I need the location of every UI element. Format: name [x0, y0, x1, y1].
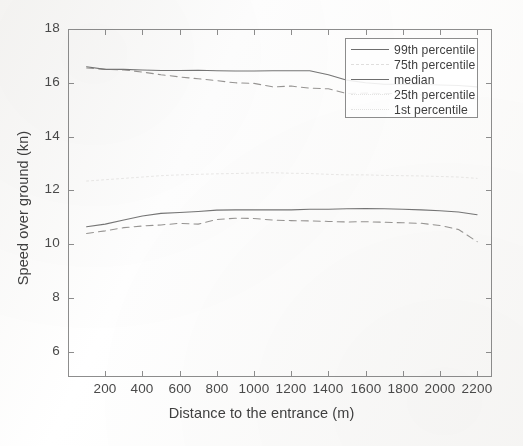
y-tick-mark	[68, 137, 74, 138]
x-tick-mark	[366, 371, 367, 377]
legend-label-99th: 99th percentile	[394, 43, 475, 57]
x-tick-mark-top	[477, 29, 478, 35]
y-tick-mark-right	[486, 83, 492, 84]
y-tick-mark-right	[486, 137, 492, 138]
y-tick-mark	[68, 83, 74, 84]
x-tick-mark-top	[366, 29, 367, 35]
x-tick-mark-top	[254, 29, 255, 35]
y-tick-mark	[68, 352, 74, 353]
y-tick-label: 18	[20, 20, 60, 35]
y-tick-mark-right	[486, 352, 492, 353]
x-tick-mark-top	[291, 29, 292, 35]
legend-line-sample-median	[350, 75, 390, 85]
x-tick-mark	[403, 371, 404, 377]
x-axis-title: Distance to the entrance (m)	[0, 405, 523, 421]
x-tick-mark	[291, 371, 292, 377]
x-tick-mark	[180, 371, 181, 377]
legend-item-75th: 75th percentile	[346, 57, 477, 72]
legend-label-median: median	[394, 73, 435, 87]
x-tick-mark	[328, 371, 329, 377]
x-tick-mark	[217, 371, 218, 377]
chart-legend: 99th percentile 75th percentile median 2…	[345, 38, 478, 118]
y-axis-title: Speed over ground (kn)	[15, 43, 31, 373]
y-tick-mark-right	[486, 190, 492, 191]
y-tick-mark-right	[486, 29, 492, 30]
x-tick-mark	[254, 371, 255, 377]
x-tick-mark-top	[142, 29, 143, 35]
x-tick-mark-top	[217, 29, 218, 35]
x-tick-mark-top	[403, 29, 404, 35]
legend-line-sample-75th	[350, 60, 390, 70]
y-tick-mark-right	[486, 244, 492, 245]
y-tick-mark	[68, 190, 74, 191]
legend-item-99th: 99th percentile	[346, 42, 477, 57]
legend-item-median: median	[346, 72, 477, 87]
legend-line-sample-25th	[350, 90, 390, 100]
x-tick-mark-top	[328, 29, 329, 35]
x-tick-mark-top	[440, 29, 441, 35]
y-tick-mark	[68, 298, 74, 299]
y-tick-mark	[68, 29, 74, 30]
x-tick-mark	[440, 371, 441, 377]
legend-item-1st: 1st percentile	[346, 102, 477, 117]
y-tick-mark-right	[486, 298, 492, 299]
legend-line-sample-1st	[350, 105, 390, 115]
x-tick-mark-top	[180, 29, 181, 35]
legend-label-1st: 1st percentile	[394, 103, 468, 117]
legend-label-25th: 25th percentile	[394, 88, 475, 102]
figure-canvas: 6810121416182004006008001000120014001600…	[0, 0, 523, 446]
x-tick-mark	[142, 371, 143, 377]
x-tick-mark	[477, 371, 478, 377]
x-tick-label: 2200	[447, 381, 507, 396]
legend-label-75th: 75th percentile	[394, 58, 475, 72]
legend-item-25th: 25th percentile	[346, 87, 477, 102]
y-tick-mark	[68, 244, 74, 245]
x-tick-mark	[105, 371, 106, 377]
x-tick-mark-top	[105, 29, 106, 35]
legend-line-sample-99th	[350, 45, 390, 55]
